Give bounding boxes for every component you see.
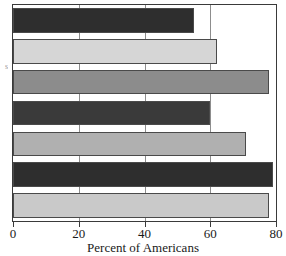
x-axis-title: Percent of Americans [0,240,286,256]
bar-3 [13,70,269,95]
bar-chart: s 020406080 Percent of Americans [0,0,286,256]
bar-1 [13,8,194,33]
bar-series [13,5,276,221]
plot-area [12,4,277,222]
bar-2 [13,39,217,64]
bar-5 [13,132,246,157]
bar-4 [13,101,210,126]
bar-6 [13,162,273,187]
bar-7 [13,193,269,218]
y-axis-label-fragment: s [0,62,8,71]
